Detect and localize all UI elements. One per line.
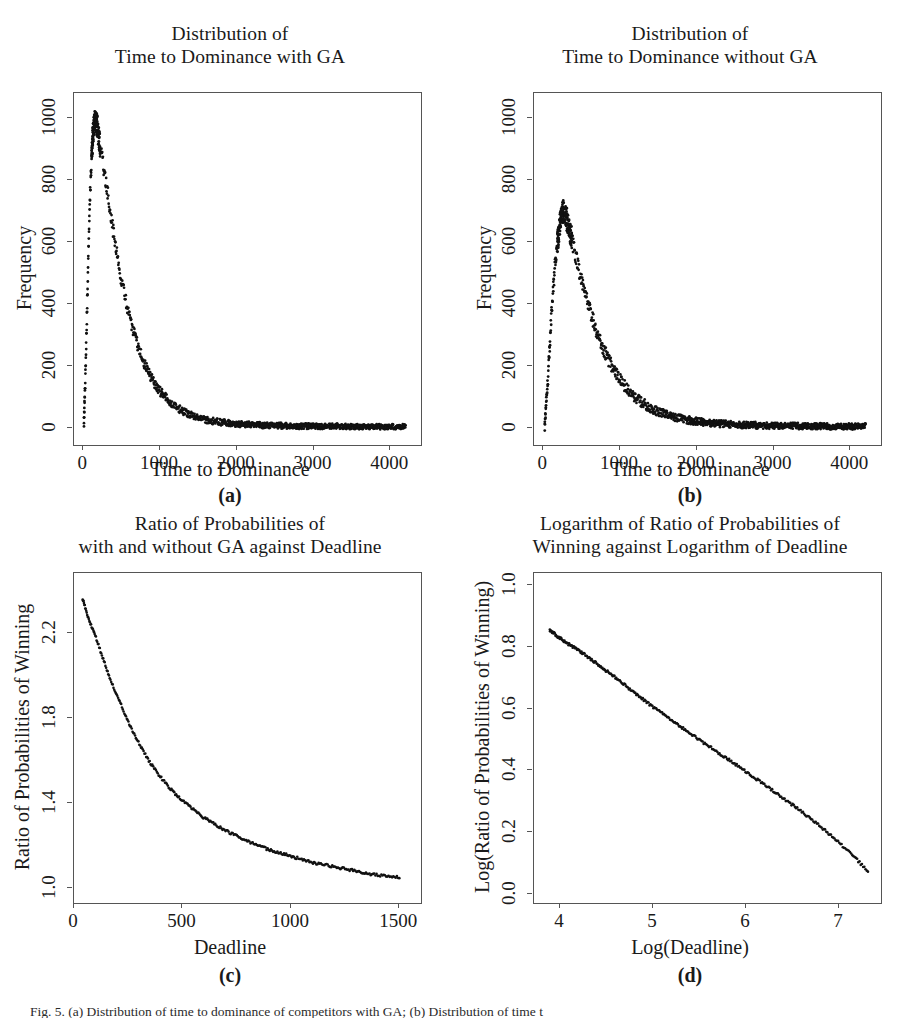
panel-b-ylabel: Frequency [473,226,496,310]
panel-c-title: Ratio of Probabilities of with and witho… [0,512,460,558]
panel-d-letter: (d) [460,964,920,987]
y-tickmark [527,646,532,647]
panel-d-ylabel: Log(Ratio of Probabilities of Winning) [471,581,494,893]
panel-d-title: Logarithm of Ratio of Probabilities of W… [460,512,920,558]
x-tickmark [82,445,83,450]
panel-d-title-line1: Logarithm of Ratio of Probabilities of [460,512,920,535]
panel-d: Logarithm of Ratio of Probabilities of W… [460,512,920,1002]
y-tickmark [527,365,532,366]
panel-c-title-line2: with and without GA against Deadline [0,535,460,558]
y-tick-label: 0 [498,422,520,432]
y-tickmark [67,117,72,118]
x-tick-label: 1000 [271,910,309,932]
panel-c-letter: (c) [0,964,460,987]
panel-a-title-line2: Time to Dominance with GA [0,45,460,68]
x-tickmark [313,445,314,450]
y-tick-label: 200 [498,351,520,380]
figure-container: Distribution of Time to Dominance with G… [0,0,920,1018]
y-tick-label: 1.0 [498,572,520,596]
x-tick-label: 4 [554,910,564,932]
figure-caption: Fig. 5. (a) Distribution of time to domi… [30,1004,892,1018]
panel-d-plot-area [533,572,882,904]
panel-b-xlabel: Time to Dominance [460,458,920,481]
y-tickmark [527,893,532,894]
y-tickmark [527,117,532,118]
y-tick-label: 2.2 [38,620,60,644]
panel-c-xlabel: Deadline [0,936,460,959]
y-tick-label: 0.0 [498,881,520,905]
y-tick-label: 0.6 [498,696,520,720]
panel-b-plot-area [533,92,882,446]
y-tick-label: 1.8 [38,705,60,729]
y-tick-label: 200 [38,351,60,380]
panel-b-letter: (b) [460,484,920,507]
panel-a-title: Distribution of Time to Dominance with G… [0,22,460,68]
panel-b-scatter [534,93,881,445]
y-tickmark [67,717,72,718]
panel-c-scatter [74,573,421,903]
y-tick-label: 800 [498,165,520,194]
y-tickmark [67,365,72,366]
x-tickmark [619,445,620,450]
x-tickmark [773,445,774,450]
y-tickmark [527,179,532,180]
y-tickmark [527,241,532,242]
y-tickmark [527,303,532,304]
panel-d-scatter [534,573,881,903]
panel-c: Ratio of Probabilities of with and witho… [0,512,460,1002]
y-tickmark [67,887,72,888]
y-tick-label: 0.2 [498,819,520,843]
y-tick-label: 800 [38,165,60,194]
y-tick-label: 1000 [38,98,60,136]
x-tickmark [73,903,74,908]
x-tick-label: 500 [167,910,196,932]
x-tickmark [290,903,291,908]
y-tickmark [67,632,72,633]
panel-a-ylabel: Frequency [13,226,36,310]
panel-d-xlabel: Log(Deadline) [460,936,920,959]
panel-a-title-line1: Distribution of [0,22,460,45]
x-tickmark [696,445,697,450]
y-tickmark [527,584,532,585]
x-tick-label: 5 [647,910,657,932]
x-tickmark [181,903,182,908]
y-tick-label: 400 [38,289,60,318]
x-tickmark [745,903,746,908]
y-tickmark [527,708,532,709]
panel-c-title-line1: Ratio of Probabilities of [0,512,460,535]
x-tick-label: 7 [833,910,843,932]
x-tickmark [559,903,560,908]
y-tickmark [67,303,72,304]
y-tickmark [67,802,72,803]
y-tick-label: 0.8 [498,634,520,658]
y-tick-label: 0 [38,422,60,432]
y-tick-label: 1.4 [38,790,60,814]
x-tick-label: 6 [740,910,750,932]
panel-d-title-line2: Winning against Logarithm of Deadline [460,535,920,558]
panel-c-ylabel: Ratio of Probabilities of Winning [11,604,34,871]
y-tickmark [67,179,72,180]
x-tickmark [389,445,390,450]
y-tickmark [67,241,72,242]
panel-b-title-line2: Time to Dominance without GA [460,45,920,68]
x-tick-label: 1500 [379,910,417,932]
x-tick-label: 0 [68,910,78,932]
panel-a-scatter [74,93,421,445]
y-tick-label: 1.0 [38,875,60,899]
y-tickmark [527,831,532,832]
panel-a-plot-area [73,92,422,446]
x-tickmark [652,903,653,908]
panel-b-title-line1: Distribution of [460,22,920,45]
x-tickmark [838,903,839,908]
x-tickmark [236,445,237,450]
panel-b: Distribution of Time to Dominance withou… [460,22,920,512]
panel-b-title: Distribution of Time to Dominance withou… [460,22,920,68]
y-tickmark [67,427,72,428]
y-tickmark [527,427,532,428]
x-tickmark [849,445,850,450]
panel-a-letter: (a) [0,484,460,507]
panel-a-xlabel: Time to Dominance [0,458,460,481]
y-tick-label: 0.4 [498,758,520,782]
y-tick-label: 600 [38,227,60,256]
y-tick-label: 600 [498,227,520,256]
